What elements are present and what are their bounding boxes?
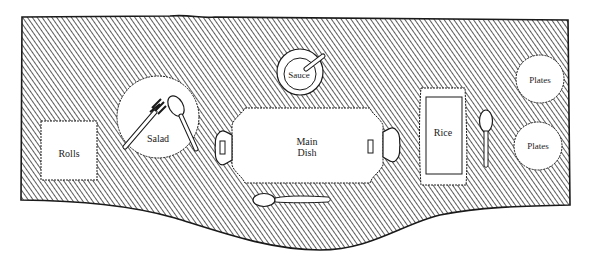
main-dish-platter: Main Dish [215, 108, 400, 183]
main-dish-label-line2: Dish [298, 147, 317, 158]
buffet-table-diagram: Rolls Salad Sauce Main [0, 0, 590, 264]
plates-stack-top: Plates [516, 55, 564, 103]
salad-bowl: Salad [117, 76, 199, 158]
sauce-label: Sauce [288, 70, 310, 80]
main-dish-label-line1: Main [296, 136, 317, 147]
plates-stack-bottom: Plates [514, 122, 562, 170]
rolls-tray: Rolls [41, 121, 97, 180]
salad-label: Salad [147, 133, 169, 144]
rolls-label: Rolls [58, 148, 79, 159]
platter-left-handle-icon [215, 131, 232, 165]
platter-right-handle-icon [383, 128, 400, 162]
rice-tray: Rice [420, 88, 467, 185]
rice-label: Rice [434, 127, 453, 138]
plates-bottom-label: Plates [527, 141, 549, 151]
sauce-bowl: Sauce [277, 49, 323, 95]
plates-top-label: Plates [529, 75, 551, 85]
